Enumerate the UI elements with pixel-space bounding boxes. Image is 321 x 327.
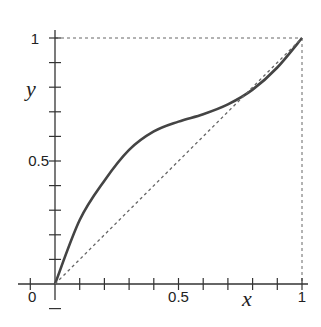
y-tick-label-0.5: 0.5 — [28, 152, 49, 169]
x-tick-label-1: 1 — [298, 288, 306, 305]
x-axis-label: x — [241, 286, 252, 311]
y-tick-label-1: 1 — [31, 30, 39, 47]
diagonal-line — [55, 38, 302, 284]
y-axis-label: y — [24, 76, 36, 101]
x-tick-label-0: 0 — [28, 288, 36, 305]
x-tick-label-0.5: 0.5 — [168, 288, 189, 305]
chart: 00.510.51xy — [0, 0, 321, 327]
